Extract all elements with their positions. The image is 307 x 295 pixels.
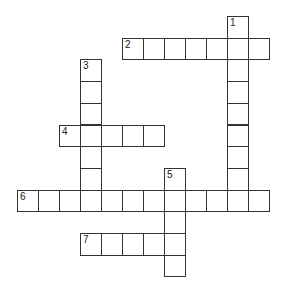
crossword-cell[interactable] xyxy=(248,38,270,61)
crossword-cell[interactable] xyxy=(80,168,102,191)
crossword-cell[interactable] xyxy=(164,38,186,61)
clue-number: 1 xyxy=(230,17,236,28)
clue-number: 5 xyxy=(167,169,173,180)
crossword-cell[interactable] xyxy=(122,233,144,256)
clue-number: 6 xyxy=(20,191,26,202)
crossword-cell[interactable] xyxy=(227,190,249,213)
crossword-cell[interactable] xyxy=(227,168,249,191)
crossword-cell[interactable] xyxy=(122,190,144,213)
crossword-cell[interactable] xyxy=(164,233,186,256)
crossword-cell[interactable]: 3 xyxy=(80,59,102,82)
crossword-cell[interactable] xyxy=(227,103,249,126)
crossword-cell[interactable] xyxy=(164,255,186,278)
crossword-cell[interactable]: 2 xyxy=(122,38,144,61)
crossword-cell[interactable] xyxy=(80,81,102,104)
crossword-cell[interactable] xyxy=(227,38,249,61)
crossword-cell[interactable]: 5 xyxy=(164,168,186,191)
crossword-cell[interactable] xyxy=(80,103,102,126)
crossword-cell[interactable] xyxy=(227,81,249,104)
crossword-cell[interactable]: 6 xyxy=(17,190,39,213)
crossword-cell[interactable] xyxy=(143,233,165,256)
crossword-cell[interactable]: 4 xyxy=(59,125,81,148)
crossword-cell[interactable] xyxy=(80,125,102,148)
crossword-cell[interactable]: 7 xyxy=(80,233,102,256)
crossword-cell[interactable] xyxy=(227,59,249,82)
crossword-cell[interactable] xyxy=(143,125,165,148)
crossword-cell[interactable] xyxy=(164,211,186,234)
crossword-cell[interactable]: 1 xyxy=(227,16,249,39)
crossword-cell[interactable] xyxy=(143,190,165,213)
crossword-cell[interactable] xyxy=(185,190,207,213)
crossword-cell[interactable] xyxy=(80,146,102,169)
crossword-cell[interactable] xyxy=(185,38,207,61)
crossword-grid: 1234567 xyxy=(0,0,307,295)
clue-number: 3 xyxy=(83,60,89,71)
crossword-cell[interactable] xyxy=(80,190,102,213)
crossword-cell[interactable] xyxy=(101,125,123,148)
clue-number: 7 xyxy=(83,234,89,245)
crossword-cell[interactable] xyxy=(59,190,81,213)
crossword-cell[interactable] xyxy=(206,190,228,213)
crossword-cell[interactable] xyxy=(101,233,123,256)
clue-number: 4 xyxy=(62,126,68,137)
crossword-cell[interactable] xyxy=(227,146,249,169)
crossword-cell[interactable] xyxy=(101,190,123,213)
crossword-cell[interactable] xyxy=(143,38,165,61)
crossword-cell[interactable] xyxy=(248,190,270,213)
clue-number: 2 xyxy=(125,39,131,50)
crossword-cell[interactable] xyxy=(38,190,60,213)
crossword-cell[interactable] xyxy=(206,38,228,61)
crossword-cell[interactable] xyxy=(164,190,186,213)
crossword-cell[interactable] xyxy=(122,125,144,148)
crossword-cell[interactable] xyxy=(227,125,249,148)
